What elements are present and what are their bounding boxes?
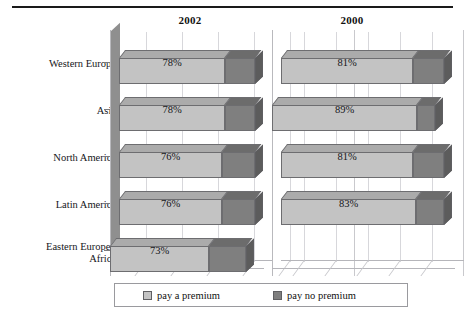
bar-front-face <box>281 199 416 225</box>
floor-line <box>272 268 455 269</box>
chart-panel-2000: 81% 89% 81% 83% <box>272 30 464 276</box>
legend-swatch-icon <box>273 291 282 300</box>
legend-label: pay no premium <box>287 290 356 301</box>
legend-swatch-icon <box>143 291 152 300</box>
panel-header-2000: 2000 <box>312 14 392 26</box>
chart-legend: pay a premium pay no premium <box>114 283 408 307</box>
bar-front-face <box>413 152 444 178</box>
legend-item-pay-no-premium[interactable]: pay no premium <box>273 288 356 302</box>
bar-top-face <box>119 144 228 152</box>
bar-top-face <box>281 191 422 199</box>
bar-top-face <box>281 144 419 152</box>
bar-front-face <box>281 58 413 84</box>
category-label-north-america: North America <box>53 152 116 164</box>
bar-front-face <box>417 105 435 131</box>
bar-front-face <box>222 199 255 225</box>
bar-front-face <box>225 105 255 131</box>
category-label-eastern-europe-africa: Eastern Europe / Africa <box>46 241 116 264</box>
bar-top-face <box>119 50 231 58</box>
bar-front-face <box>272 105 417 131</box>
category-label-western-europe: Western Europe <box>49 58 116 70</box>
bar-front-face <box>119 152 222 178</box>
category-label-latin-america: Latin America <box>56 199 116 211</box>
bar-front-face <box>416 199 444 225</box>
bar-front-face <box>119 105 225 131</box>
bar-front-face <box>209 246 246 272</box>
bar-front-face <box>222 152 255 178</box>
panel-header-2002: 2002 <box>150 14 230 26</box>
bar-top-face <box>119 191 228 199</box>
bar-front-face <box>110 246 209 272</box>
bar-top-face <box>272 97 423 105</box>
bar-top-face <box>110 238 215 246</box>
bar-front-face <box>225 58 255 84</box>
top-horizontal-rule <box>12 6 453 8</box>
legend-item-pay-a-premium[interactable]: pay a premium <box>143 288 220 302</box>
bar-front-face <box>119 199 222 225</box>
bar-front-face <box>119 58 225 84</box>
bar-front-face <box>281 152 413 178</box>
bar-top-face <box>281 50 419 58</box>
legend-label: pay a premium <box>157 290 220 301</box>
floor-line <box>281 260 464 261</box>
bar-top-face <box>119 97 231 105</box>
bar-front-face <box>413 58 444 84</box>
